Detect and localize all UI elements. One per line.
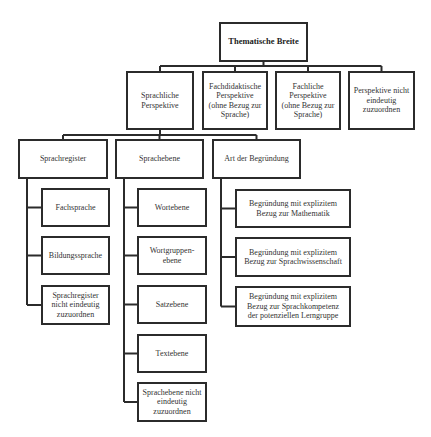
node-fachliche-perspektive: Fachliche Perspektive (ohne Bezug zur Sp… [275, 71, 341, 130]
node-begruendung-sprachwissenschaft: Begründung mit explizitem Bezug zur Spra… [235, 237, 351, 277]
node-begruendung-mathematik: Begründung mit explizitem Bezug zur Math… [235, 189, 351, 228]
node-fachdidaktische-perspektive: Fachdidaktische Perspektive (ohne Bezug … [202, 71, 268, 130]
node-fachsprache: Fachsprache [41, 188, 110, 227]
node-sprachliche-perspektive: Sprachliche Perspektive [126, 71, 194, 130]
node-sprachebene: Sprachebene [115, 139, 204, 179]
node-begruendung-sprachkompetenz: Begründung mit explizitem Bezug zur Spra… [235, 286, 351, 327]
node-sprachregister: Sprachregister [18, 139, 108, 179]
node-wortebene: Wortebene [137, 188, 207, 227]
node-thematische-breite: Thematische Breite [219, 22, 308, 62]
node-sprachebene-nicht-zuzuordnen: Sprachebene nicht eindeutig zuzuordnen [137, 382, 207, 422]
node-satzebene: Satzebene [137, 285, 207, 324]
node-wortgruppenebene: Wortgruppen- ebene [137, 236, 207, 275]
node-bildungssprache: Bildungssprache [41, 236, 110, 275]
node-perspektive-nicht-zuzuordnen: Perspektive nicht eindeutig zuzuordnen [348, 71, 415, 130]
node-art-der-begruendung: Art der Begründung [212, 139, 301, 179]
node-textebene: Textebene [137, 334, 207, 373]
node-sprachregister-nicht-zuzuordnen: Sprachregister nicht eindeutig zuzuordne… [41, 285, 110, 325]
tree-diagram: Thematische Breite Sprachliche Perspekti… [0, 0, 431, 437]
